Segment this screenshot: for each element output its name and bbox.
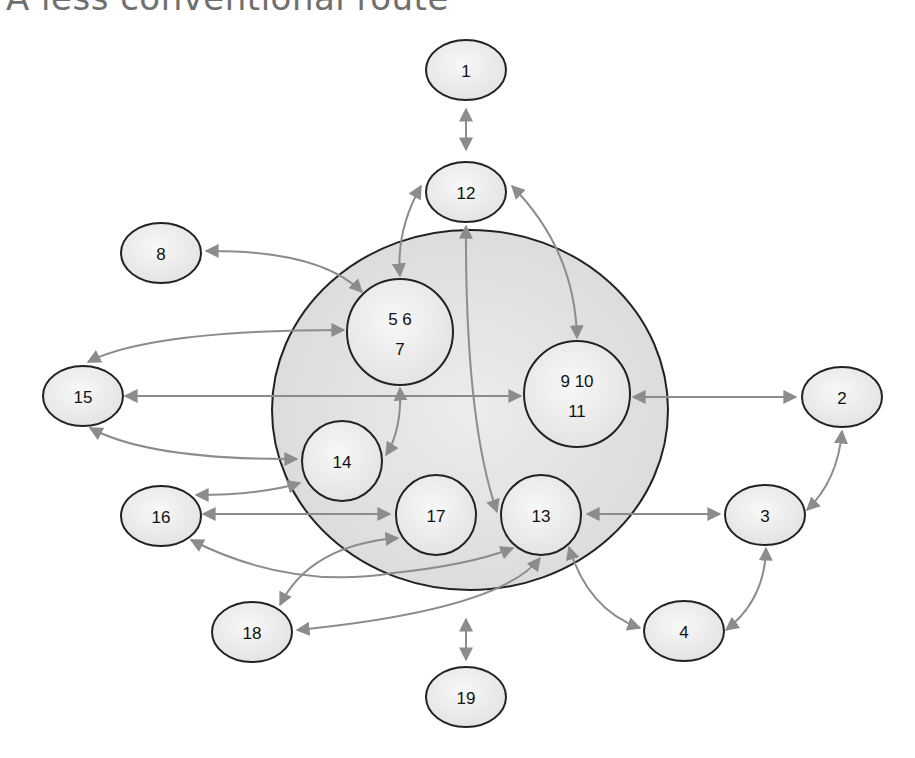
node-91011: 9 1011 [524,341,630,447]
node-2: 2 [802,367,882,427]
node-15: 15 [43,366,123,426]
edge-15-14-arrow [90,428,297,459]
node-13: 13 [501,475,581,555]
node-label: 15 [74,388,93,407]
node-label: 12 [457,184,476,203]
node-label: 4 [679,623,688,642]
node-8: 8 [121,223,201,283]
edge-3-4-arrow [726,548,766,630]
node-label: 5 6 [388,310,412,329]
node-19: 19 [426,667,506,727]
node-14: 14 [302,421,382,501]
node-4: 4 [644,601,724,661]
node-12: 12 [426,162,506,222]
node-16: 16 [121,486,201,546]
node-18: 18 [212,602,292,662]
node-label: 2 [837,389,846,408]
node-label: 9 10 [560,372,593,391]
node-1: 1 [426,40,506,100]
node-label: 14 [333,453,352,472]
edge-16-14-arrow [196,483,300,495]
node-label: 11 [568,402,586,421]
node-label: 8 [156,245,165,264]
node-label: 18 [243,624,262,643]
node-label: 17 [427,507,446,526]
node-label: 1 [461,62,470,81]
node-label: 16 [152,508,171,527]
node-17: 17 [396,475,476,555]
node-label: 3 [760,507,769,526]
node-label: 7 [395,340,404,359]
node-shape [524,341,630,447]
node-3: 3 [725,485,805,545]
edge-2-3-arrow [807,431,842,510]
node-label: 13 [532,507,551,526]
node-567: 5 67 [347,279,453,385]
node-label: 19 [457,689,476,708]
node-shape [347,279,453,385]
route-diagram: 11285 679 101115214161713318419 [0,0,915,758]
